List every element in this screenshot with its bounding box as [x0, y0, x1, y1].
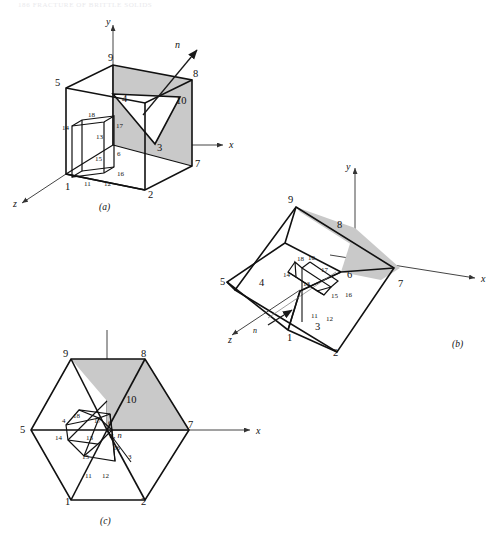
figure-canvas: y x z n 9 5 8 4 10 3 7 1 2 6 18 14 17 13… — [0, 0, 497, 549]
figure-a-normal-label: n — [175, 39, 180, 50]
figure-b-vertex-15: 15 — [331, 292, 339, 300]
figure-c-vertex-14: 14 — [55, 434, 63, 442]
figure-c-vertex-15: 15 — [82, 453, 90, 461]
figure-b-vertex-16: 16 — [345, 291, 353, 299]
figure-a-vertex-11: 11 — [84, 180, 91, 188]
figure-a-y-label: y — [105, 16, 111, 27]
figure-b-vertex-8: 8 — [337, 219, 342, 230]
figure-c-vertex-7: 7 — [188, 419, 193, 430]
figure-c-vertex-13: 13 — [86, 434, 94, 442]
figure-a-vertex-12: 12 — [104, 180, 112, 188]
figure-a-vertex-10: 10 — [176, 95, 187, 106]
figure-c-caption: (c) — [100, 516, 111, 527]
figure-a-vertex-15: 15 — [95, 155, 103, 163]
figure-c-vertex-11: 11 — [85, 472, 92, 480]
figure-a-inner-prism — [72, 116, 114, 177]
figure-c-vertex-9: 9 — [63, 348, 68, 359]
figure-b-vertex-18: 18 — [297, 255, 305, 263]
figure-c-vertex-10: 10 — [126, 394, 137, 405]
figure-c-vertex-16: 16 — [113, 444, 121, 452]
figure-b-vertex-17: 17 — [321, 266, 329, 274]
figure-b-z-label: z — [227, 334, 232, 345]
figure-b-vertex-1: 1 — [287, 332, 292, 343]
figure-c-vertex-5: 5 — [20, 424, 25, 435]
figure-a-x-label: x — [228, 139, 234, 150]
figure-c-vertex-4: 4 — [62, 417, 66, 425]
figure-c-vertex-18: 18 — [73, 412, 81, 420]
figure-b-vertex-4: 4 — [259, 277, 265, 288]
figure-a-vertex-17: 17 — [116, 122, 124, 130]
figure-a-vertex-14: 14 — [62, 124, 70, 132]
figure-b-caption: (b) — [452, 339, 463, 350]
figure-b-vertex-11: 11 — [311, 312, 318, 320]
figure-b-vertex-6: 6 — [347, 269, 352, 280]
figure-a-vertex-9: 9 — [108, 52, 113, 63]
figure-a-vertex-7: 7 — [195, 158, 200, 169]
figure-c-vertex-2: 2 — [141, 496, 146, 507]
figure-a-vertex-13: 13 — [96, 133, 104, 141]
figure-a-vertex-1: 1 — [65, 181, 70, 192]
figure-c-vertex-1: 1 — [65, 496, 70, 507]
figure-c-vertex-17: 17 — [94, 417, 102, 425]
figure-a-vertex-6: 6 — [117, 150, 121, 158]
figure-b-vertex-13: 13 — [303, 280, 311, 288]
figure-c-vertex-8: 8 — [141, 348, 146, 359]
figure-page: 186 FRACTURE OF BRITTLE SOLIDS — [0, 0, 497, 549]
figure-a-z-label: z — [12, 198, 17, 209]
figure-a-vertex-18: 18 — [88, 111, 96, 119]
figure-b-x-label: x — [480, 273, 486, 284]
figure-a-vertex-3: 3 — [157, 142, 162, 153]
figure-b-vertex-9: 9 — [288, 194, 293, 205]
figure-b-vertex-12: 12 — [326, 315, 334, 323]
figure-c-vertex-12: 12 — [102, 472, 110, 480]
figure-a-caption: (a) — [99, 202, 110, 213]
figure-b-vertex-14: 14 — [283, 271, 291, 279]
figure-a-vertex-4: 4 — [122, 93, 128, 104]
figure-a-vertex-16: 16 — [117, 170, 125, 178]
figure-a-vertex-2: 2 — [148, 189, 153, 200]
figure-b-vertex-2: 2 — [333, 347, 338, 358]
figure-a-vertex-8: 8 — [193, 68, 198, 79]
figure-b: y x z n 9 8 5 4 6 7 1 2 3 18 10 17 14 13… — [220, 161, 486, 358]
figure-a-vertex-5: 5 — [55, 77, 60, 88]
figure-b-y-label: y — [345, 161, 351, 172]
figure-c-vertex-6: 6 — [108, 419, 112, 427]
figure-b-vertex-5: 5 — [220, 276, 225, 287]
figure-b-normal-label: n — [253, 326, 257, 335]
figure-b-vertex-3: 3 — [315, 321, 320, 332]
figure-c-vertex-3: 3 — [128, 453, 132, 461]
figure-c-x-label: x — [255, 425, 261, 436]
figure-c: x z, n 9 8 10 5 7 1 2 3 4 6 18 17 14 13 … — [20, 330, 261, 527]
figure-a: y x z n 9 5 8 4 10 3 7 1 2 6 18 14 17 13… — [12, 16, 234, 213]
figure-b-vertex-10: 10 — [308, 254, 316, 262]
figure-c-zn-label: z, n — [109, 430, 122, 440]
figure-b-vertex-7: 7 — [398, 278, 403, 289]
